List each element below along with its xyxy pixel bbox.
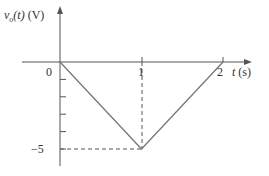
y-axis-label: vo(t) (V) — [4, 9, 44, 24]
y-axis-arg: (t) — [13, 8, 24, 22]
x-axis-unit: (s) — [235, 65, 251, 79]
y-ticks — [60, 79, 66, 149]
y-axis-arrow-icon — [57, 6, 63, 14]
tick-label-1: 1 — [138, 66, 144, 78]
x-axis-label: t (s) — [232, 66, 251, 78]
y-axis-unit: (V) — [25, 8, 45, 22]
tick-label-2: 2 — [217, 66, 223, 78]
tick-label-minus-5: −5 — [31, 143, 44, 155]
tick-label-0: 0 — [46, 66, 52, 78]
